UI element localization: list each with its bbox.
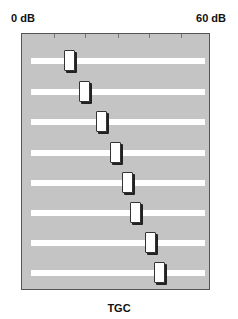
tgc-slider-track-3[interactable] xyxy=(31,119,205,125)
tgc-slider-knob-8[interactable] xyxy=(154,262,165,283)
tgc-slider-knob-5[interactable] xyxy=(122,172,133,193)
tgc-slider-knob-7[interactable] xyxy=(145,232,156,253)
tgc-slider-knob-4[interactable] xyxy=(110,142,121,163)
scale-tick xyxy=(54,34,55,38)
tgc-slider-track-6[interactable] xyxy=(31,210,205,216)
scale-tick xyxy=(149,34,150,38)
tgc-panel xyxy=(21,33,210,290)
tgc-slider-track-1[interactable] xyxy=(31,58,205,64)
tgc-slider-track-5[interactable] xyxy=(31,180,205,186)
scale-tick xyxy=(85,34,86,38)
tgc-slider-track-8[interactable] xyxy=(31,270,205,276)
tgc-slider-knob-3[interactable] xyxy=(96,111,107,132)
tgc-caption: TGC xyxy=(0,302,238,314)
scale-max-label: 60 dB xyxy=(196,12,226,24)
scale-tick xyxy=(118,34,119,38)
tgc-slider-track-7[interactable] xyxy=(31,240,205,246)
tgc-slider-knob-2[interactable] xyxy=(79,81,90,102)
scale-tick xyxy=(181,34,182,38)
tgc-slider-track-2[interactable] xyxy=(31,89,205,95)
scale-min-label: 0 dB xyxy=(11,12,35,24)
tgc-slider-knob-6[interactable] xyxy=(130,202,141,223)
tgc-slider-knob-1[interactable] xyxy=(64,50,75,71)
